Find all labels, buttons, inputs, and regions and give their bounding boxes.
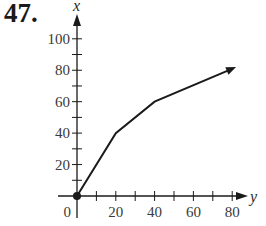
ticks	[72, 39, 232, 201]
vertical-axis-arrow-icon	[73, 14, 81, 26]
horizontal-axis-label: y	[248, 188, 258, 206]
x-tick-label: 60	[186, 204, 201, 220]
tick-labels: 20406080020406080100	[48, 31, 240, 220]
y-tick-label: 60	[55, 94, 70, 110]
y-tick-label: 20	[55, 157, 70, 173]
line-chart: 20406080020406080100 y x	[0, 0, 266, 226]
y-tick-label: 80	[55, 62, 70, 78]
x-tick-label: 40	[147, 204, 162, 220]
vertical-axis-label: x	[72, 0, 80, 14]
x-tick-label: 20	[108, 204, 123, 220]
horizontal-axis-arrow-icon	[236, 192, 248, 200]
origin-point	[73, 192, 81, 200]
axes	[58, 14, 248, 218]
y-tick-label: 40	[55, 125, 70, 141]
y-tick-label: 100	[48, 31, 71, 47]
x-tick-label: 80	[225, 204, 240, 220]
data-line	[77, 70, 230, 196]
origin-label: 0	[64, 204, 72, 220]
curve-arrowhead-icon	[225, 67, 236, 75]
